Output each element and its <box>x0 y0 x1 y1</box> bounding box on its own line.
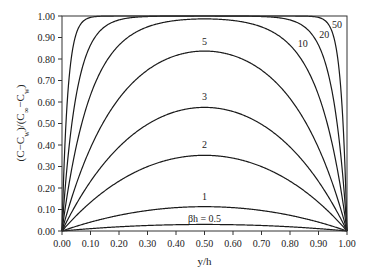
x-tick-label: 0.80 <box>281 238 299 249</box>
x-tick-label: 0.00 <box>53 238 71 249</box>
x-tick-label: 0.50 <box>196 238 214 249</box>
y-tick-label: 0.30 <box>38 161 56 172</box>
x-tick-label: 1.00 <box>338 238 356 249</box>
y-tick-label: 0.80 <box>38 54 56 65</box>
x-tick-label: 0.70 <box>253 238 271 249</box>
curve-label: 5 <box>202 36 207 47</box>
curve-label: 20 <box>319 29 329 40</box>
y-tick-label: 0.40 <box>38 140 56 151</box>
y-axis-label: (C−Cw)/(C∞−Cw) <box>14 84 31 161</box>
y-tick-label: 0.00 <box>38 226 56 237</box>
y-tick-label: 0.60 <box>38 97 56 108</box>
y-tick-label: 0.90 <box>38 32 56 43</box>
y-tick-label: 0.50 <box>38 118 56 129</box>
x-tick-label: 0.90 <box>310 238 328 249</box>
curve-label: 50 <box>332 19 342 30</box>
curve-bh-0.5 <box>62 224 347 231</box>
x-axis-label: y/h <box>197 255 212 267</box>
curve-label: 10 <box>298 38 308 49</box>
x-tick-label: 0.40 <box>167 238 185 249</box>
curve-label: βh = 0.5 <box>188 213 221 224</box>
curve-label: 2 <box>202 139 207 150</box>
curve-labels: βh = 0.51235102050 <box>188 19 342 224</box>
chart: 0.000.100.200.300.400.500.600.700.800.90… <box>0 0 376 279</box>
curve-label: 3 <box>202 91 207 102</box>
x-axis: 0.000.100.200.300.400.500.600.700.800.90… <box>53 231 356 249</box>
y-axis: 0.000.100.200.300.400.500.600.700.800.90… <box>38 11 63 237</box>
x-tick-label: 0.60 <box>224 238 242 249</box>
y-tick-label: 0.20 <box>38 183 56 194</box>
y-tick-label: 0.70 <box>38 75 56 86</box>
x-tick-label: 0.30 <box>139 238 157 249</box>
curve-label: 1 <box>202 191 207 202</box>
y-tick-label: 1.00 <box>38 11 56 22</box>
x-tick-label: 0.20 <box>110 238 128 249</box>
x-tick-label: 0.10 <box>82 238 100 249</box>
y-tick-label: 0.10 <box>38 204 56 215</box>
